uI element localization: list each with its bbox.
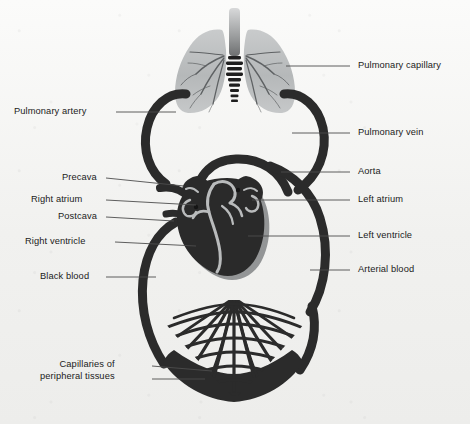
heart-valve-mark-2 xyxy=(194,205,198,209)
label-right-ventricle: Right ventricle xyxy=(25,236,85,248)
leader-line xyxy=(106,217,174,221)
label-capillaries-peripheral-tissues: Capillaries ofperipheral tissues xyxy=(40,359,115,382)
heart-valve-mark xyxy=(236,188,240,192)
label-pulmonary-artery: Pulmonary artery xyxy=(14,106,86,118)
label-black-blood: Black blood xyxy=(40,271,89,283)
pulmonary-circuit xyxy=(145,94,324,190)
label-precava: Precava xyxy=(62,172,97,184)
label-left-ventricle: Left ventricle xyxy=(358,230,412,242)
label-left-atrium: Left atrium xyxy=(358,194,403,206)
label-postcava: Postcava xyxy=(58,211,97,223)
lung-left xyxy=(175,30,226,113)
lung-right xyxy=(244,30,295,113)
heart-group xyxy=(177,176,269,280)
label-right-atrium: Right atrium xyxy=(31,194,82,206)
label-arterial-blood: Arterial blood xyxy=(358,264,414,276)
arterial-limb xyxy=(300,306,314,370)
bronchi xyxy=(226,56,243,102)
label-pulmonary-capillary: Pulmonary capillary xyxy=(358,60,441,72)
leader-line xyxy=(106,178,184,186)
label-capillaries-peripheral-tissues-line1: Capillaries of xyxy=(40,359,115,371)
label-pulmonary-vein: Pulmonary vein xyxy=(358,127,423,139)
label-capillaries-peripheral-tissues-line2: peripheral tissues xyxy=(40,371,115,383)
lungs-group xyxy=(175,8,295,113)
peripheral-capillary-bed xyxy=(156,298,312,408)
trachea xyxy=(229,8,240,56)
label-aorta: Aorta xyxy=(358,166,381,178)
diagram-canvas: Pulmonary arteryPrecavaRight atriumPostc… xyxy=(0,0,470,424)
aorta-descending xyxy=(270,166,325,312)
